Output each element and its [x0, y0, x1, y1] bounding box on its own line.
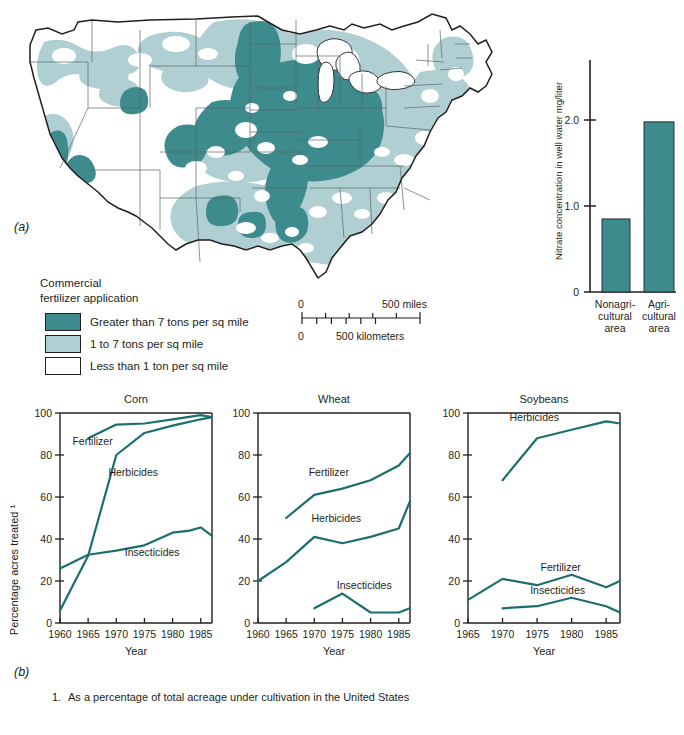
ytick-label: 60	[238, 491, 250, 503]
xtick-label: 1980	[161, 628, 185, 640]
ytick-label: 100	[232, 407, 250, 419]
legend-label-high: Greater than 7 tons per sq mile	[90, 315, 249, 330]
ytick-label: 40	[238, 533, 250, 545]
svg-text:cultural: cultural	[598, 310, 632, 322]
svg-text:Agri-: Agri-	[648, 298, 671, 310]
ytick-label: 20	[448, 575, 460, 587]
map-scale-bar: 0 500 miles 0 500 kilometers	[296, 296, 456, 348]
line-charts-svg: Percentage acres treated ¹ Corn020406080…	[0, 385, 684, 685]
xtick-label: 1965	[274, 628, 298, 640]
bar-chart-svg: Nitrate concentration in well water mg/l…	[548, 10, 684, 360]
chart-title: Wheat	[318, 393, 350, 405]
legend-title-line2: fertilizer application	[40, 291, 249, 306]
bar-ytick-1: 1.0	[564, 200, 579, 212]
ytick-label: 80	[448, 449, 460, 461]
xtick-label: 1975	[331, 628, 355, 640]
scale-km-zero: 0	[298, 330, 304, 342]
legend-swatch-high	[45, 313, 81, 331]
legend-title-line1: Commercial	[40, 276, 249, 291]
xtick-label: 1960	[48, 628, 72, 640]
xtick-label: 1965	[456, 628, 480, 640]
chart-title: Soybeans	[520, 393, 569, 405]
us-fertilizer-map	[0, 0, 548, 300]
xtick-label: 1975	[133, 628, 157, 640]
xtick-label: 1970	[105, 628, 129, 640]
map-choropleth-fills	[0, 0, 548, 300]
chart-corn: Corn020406080100196019651970197519801985…	[34, 393, 212, 657]
xtick-label: 1970	[303, 628, 327, 640]
bar-chart-ylabel: Nitrate concentration in well water mg/l…	[553, 81, 564, 260]
ytick-label: 60	[40, 491, 52, 503]
legend-item-mid: 1 to 7 tons per sq mile	[45, 333, 249, 355]
figure-footnote: 1. As a percentage of total acreage unde…	[52, 690, 409, 705]
legend-swatch-mid	[45, 335, 81, 353]
bar-ytick-2: 2.0	[564, 114, 579, 126]
legend-item-high: Greater than 7 tons per sq mile	[45, 311, 249, 333]
xtick-label: 1980	[359, 628, 383, 640]
series-label-herbicides: Herbicides	[108, 466, 158, 478]
panel-b-label: (b)	[14, 665, 29, 679]
xtick-label: 1985	[387, 628, 411, 640]
ytick-label: 60	[448, 491, 460, 503]
ytick-label: 40	[40, 533, 52, 545]
footnote-text: As a percentage of total acreage under c…	[68, 690, 409, 705]
chart-title: Corn	[124, 393, 148, 405]
series-insecticides	[314, 594, 410, 613]
xtick-label: 1965	[76, 628, 100, 640]
scale-km-label: 500 kilometers	[336, 330, 404, 342]
chart-xlabel: Year	[533, 645, 556, 657]
footnote-number: 1.	[52, 690, 61, 705]
legend-item-low: Less than 1 ton per sq mile	[45, 355, 249, 377]
chart-wheat: Wheat02040608010019601965197019751980198…	[232, 393, 410, 657]
ytick-label: 80	[40, 449, 52, 461]
lines-ylabel: Percentage acres treated ¹	[8, 505, 20, 636]
series-label-insecticides: Insecticides	[337, 579, 392, 591]
legend-title: Commercial fertilizer application	[40, 276, 249, 305]
chart-soybeans: Soybeans02040608010019651970197519801985…	[442, 393, 620, 657]
legend-swatch-low	[45, 357, 81, 375]
series-label-herbicides: Herbicides	[311, 512, 361, 524]
svg-text:cultural: cultural	[642, 310, 676, 322]
line-charts-panel: Percentage acres treated ¹ Corn020406080…	[0, 385, 684, 685]
bar-agricultural	[644, 122, 674, 292]
xtick-label: 1960	[246, 628, 270, 640]
xtick-label: 1975	[525, 628, 549, 640]
series-label-fertilizer: Fertilizer	[541, 561, 582, 573]
series-label-herbicides: Herbicides	[509, 411, 559, 423]
ytick-label: 20	[238, 575, 250, 587]
bar-category-labels: Nonagri- cultural area Agri- cultural ar…	[595, 298, 676, 334]
series-label-fertilizer: Fertilizer	[72, 435, 113, 447]
nitrate-bar-chart: Nitrate concentration in well water mg/l…	[548, 10, 684, 360]
series-label-insecticides: Insecticides	[530, 584, 585, 596]
ytick-label: 100	[34, 407, 52, 419]
xtick-label: 1970	[491, 628, 515, 640]
ytick-label: 80	[238, 449, 250, 461]
series-herbicides	[503, 421, 620, 480]
map-legend: Commercial fertilizer application Greate…	[40, 276, 249, 377]
series-insecticides	[503, 598, 620, 613]
chart-xlabel: Year	[323, 645, 346, 657]
xtick-label: 1985	[189, 628, 213, 640]
series-fertilizer	[286, 453, 410, 518]
series-label-insecticides: Insecticides	[125, 546, 180, 558]
bar-ytick-0: 0	[573, 286, 579, 298]
ytick-label: 100	[442, 407, 460, 419]
series-label-fertilizer: Fertilizer	[309, 466, 350, 478]
map-panel: (a) Commercial fertilizer application Gr…	[0, 0, 548, 380]
ytick-label: 40	[448, 533, 460, 545]
ytick-label: 20	[40, 575, 52, 587]
legend-label-low: Less than 1 ton per sq mile	[90, 359, 228, 374]
xtick-label: 1985	[595, 628, 619, 640]
panel-a-label: (a)	[14, 220, 29, 234]
xtick-label: 1980	[560, 628, 584, 640]
scale-miles-zero: 0	[298, 298, 304, 310]
legend-label-mid: 1 to 7 tons per sq mile	[90, 337, 203, 352]
scale-miles-label: 500 miles	[382, 298, 427, 310]
svg-text:area: area	[648, 322, 669, 334]
svg-text:Nonagri-: Nonagri-	[595, 298, 636, 310]
chart-xlabel: Year	[125, 645, 148, 657]
svg-text:area: area	[604, 322, 625, 334]
bar-nonagricultural	[602, 219, 630, 292]
